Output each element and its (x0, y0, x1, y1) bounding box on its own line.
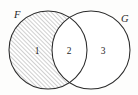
region-label-1: 1 (35, 46, 40, 56)
venn-diagram-canvas: F G 1 2 3 (0, 0, 138, 95)
region-label-2: 2 (67, 46, 72, 56)
venn-diagram-figure: F G 1 2 3 (0, 0, 138, 95)
set-label-g: G (121, 13, 129, 24)
region-label-3: 3 (101, 46, 106, 56)
set-label-f: F (13, 9, 21, 20)
